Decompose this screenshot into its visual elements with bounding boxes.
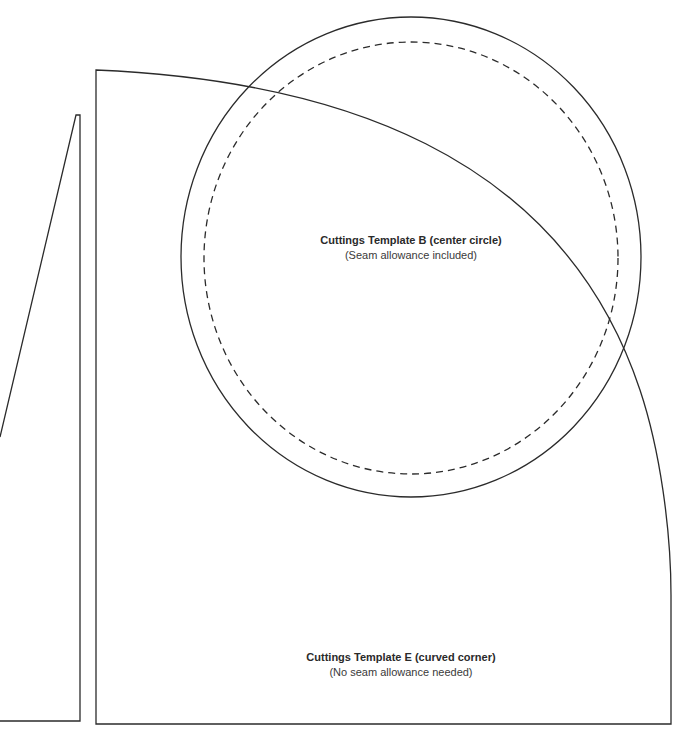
template-partial-wedge xyxy=(0,115,80,721)
template-e-label: Cuttings Template E (curved corner) (No … xyxy=(291,650,511,680)
template-b-title: Cuttings Template B (center circle) xyxy=(311,233,511,248)
pattern-sheet xyxy=(0,0,679,733)
wedge-outline xyxy=(0,115,80,721)
template-e-subtitle: (No seam allowance needed) xyxy=(291,665,511,680)
template-e-title: Cuttings Template E (curved corner) xyxy=(291,650,511,665)
template-e xyxy=(96,70,671,724)
template-b-subtitle: (Seam allowance included) xyxy=(311,248,511,263)
template-b-label: Cuttings Template B (center circle) (Sea… xyxy=(311,233,511,263)
template-e-outline xyxy=(96,70,671,724)
